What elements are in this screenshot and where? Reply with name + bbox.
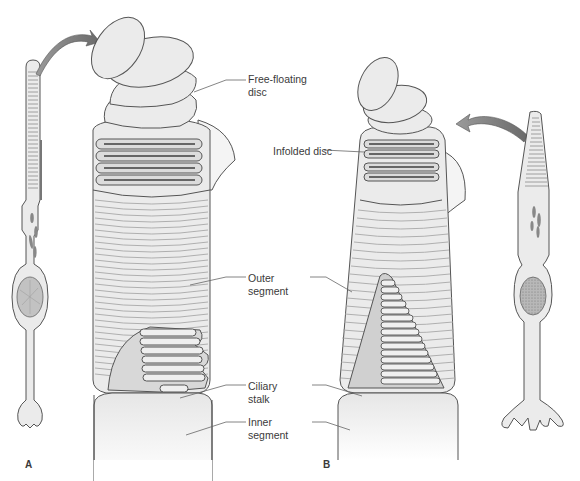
free-floating-discs-b <box>350 51 432 134</box>
rod-cell-small <box>12 60 48 428</box>
arrow-icon <box>456 114 528 142</box>
inner-segment-b <box>338 393 458 460</box>
label-ciliary-stalk: Ciliary stalk <box>248 380 277 405</box>
label-infolded-disc: Infolded disc <box>273 145 332 158</box>
free-floating-discs <box>80 8 198 129</box>
cone-cell-small <box>502 111 564 430</box>
arrow-icon <box>36 30 100 76</box>
panel-label-b: B <box>323 459 330 470</box>
cone-outer-segment <box>340 127 465 393</box>
label-outer-segment: Outer segment <box>248 272 288 297</box>
nucleus-icon <box>520 277 546 315</box>
panel-label-a: A <box>25 459 32 470</box>
label-inner-segment: Inner segment <box>248 416 288 441</box>
rod-outer-segment <box>93 118 235 393</box>
label-free-floating-disc: Free-floating disc <box>248 73 307 98</box>
